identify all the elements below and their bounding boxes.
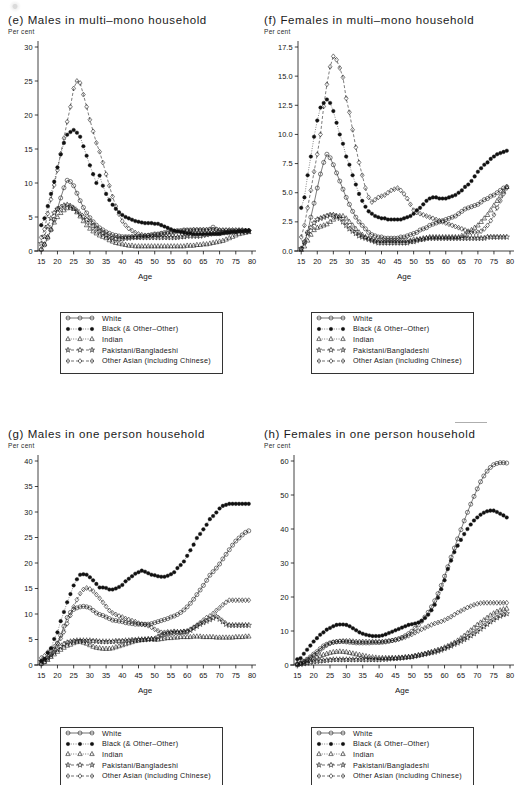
data-point-black [325, 628, 329, 632]
y-tick-label: 5 [28, 213, 32, 222]
legend-key-white [61, 313, 99, 323]
panel-f-unit-label: Per cent [264, 28, 516, 35]
data-point-black [88, 164, 92, 168]
data-point-black [192, 543, 196, 547]
legend-marker-open-triangle-icon [314, 334, 348, 344]
data-point-black [95, 181, 99, 185]
data-point-black [423, 616, 427, 620]
series-black [39, 502, 250, 663]
data-point-otherasian [479, 229, 483, 234]
x-tick-label: 45 [393, 257, 401, 266]
legend-row-otherasian: Other Asian (including Chinese) [61, 770, 222, 781]
legend-label-white: White [350, 314, 373, 323]
y-tick-label: 17.5 [278, 43, 292, 52]
y-tick-label: 5 [28, 635, 32, 644]
data-point-otherasian [65, 119, 69, 124]
x-tick-label: 60 [440, 671, 448, 680]
x-tick-label: 30 [86, 257, 94, 266]
x-tick-label: 20 [53, 257, 61, 266]
data-point-black [218, 507, 222, 511]
x-tick-label: 45 [391, 671, 399, 680]
legend-point [78, 752, 82, 756]
legend-label-white: White [99, 729, 122, 738]
x-tick-label: 80 [506, 257, 514, 266]
x-tick-label: 25 [326, 671, 334, 680]
series-line-otherasian [41, 81, 249, 237]
data-point-black [150, 221, 154, 225]
data-point-black [463, 185, 467, 189]
legend-marker-filled-circle-icon [314, 324, 348, 334]
legend-key-otherasian [61, 356, 99, 366]
x-tick-label: 20 [313, 257, 321, 266]
y-tick-label: 40 [280, 525, 288, 534]
series-white [295, 461, 509, 666]
legend-row-pakbang: Pakistani/Bangladeshi [61, 345, 222, 356]
legend-marker-filled-circle-icon [63, 739, 97, 749]
legend-point [317, 742, 320, 745]
legend-row-indian: Indian [61, 749, 222, 760]
x-tick-label: 75 [232, 671, 240, 680]
data-point-black [486, 161, 490, 165]
data-point-black [410, 622, 414, 626]
data-point-black [56, 631, 60, 635]
y-tick-label: 30 [24, 508, 32, 517]
data-point-otherasian [431, 216, 435, 221]
panel-e-title: (e) Males in multi–mono household [8, 14, 258, 26]
data-point-black [82, 144, 86, 148]
legend-marker-open-diamond-icon [314, 356, 348, 366]
legend-point [317, 752, 321, 756]
data-point-black [133, 219, 137, 223]
y-tick-label: 15.0 [278, 72, 292, 81]
legend-row-otherasian: Other Asian (including Chinese) [312, 770, 473, 781]
legend-point [66, 752, 70, 756]
x-tick-label: 30 [86, 671, 94, 680]
data-point-black [331, 624, 335, 628]
legend-label-black: Black (& Other–Other) [350, 739, 429, 748]
data-point-black [85, 154, 89, 158]
data-point-black [453, 550, 457, 554]
legend-marker-open-triangle-icon [314, 749, 348, 759]
x-tick-label: 15 [293, 671, 301, 680]
legend-row-indian: Indian [312, 749, 473, 760]
series-otherasian [39, 79, 250, 240]
data-point-black [358, 631, 362, 635]
data-point-black [315, 119, 319, 123]
data-point-otherasian [46, 211, 50, 216]
legend-row-otherasian: Other Asian (including Chinese) [61, 355, 222, 366]
series-line-black [297, 511, 506, 660]
data-point-black [394, 629, 398, 633]
data-point-black [457, 191, 461, 195]
x-tick-label: 25 [70, 257, 78, 266]
data-point-black [498, 512, 502, 516]
horizontal-rule-artifact [455, 422, 487, 423]
legend-label-pakbang: Pakistani/Bangladeshi [99, 761, 178, 770]
data-point-black [443, 579, 447, 583]
x-tick-label: 20 [53, 671, 61, 680]
legend-marker-open-diamond-icon [63, 356, 97, 366]
data-point-black [247, 502, 251, 506]
data-point-black [364, 205, 368, 209]
data-point-black [39, 223, 43, 227]
panel-g-title: (g) Males in one person household [8, 428, 258, 440]
data-point-black [179, 563, 183, 567]
legend-row-black: Black (& Other–Other) [61, 324, 222, 335]
y-tick-label: 10.0 [278, 130, 292, 139]
data-point-black [420, 619, 424, 623]
series-black [39, 128, 250, 236]
legend-label-indian: Indian [99, 750, 123, 759]
panel-h-title: (h) Females in one person household [264, 428, 516, 440]
legend-label-indian: Indian [350, 750, 374, 759]
x-tick-label: 35 [361, 257, 369, 266]
data-point-black [413, 622, 417, 626]
x-tick-label: 75 [490, 671, 498, 680]
series-pakbang [295, 611, 510, 667]
data-point-black [479, 513, 483, 517]
x-tick-label: 55 [167, 257, 175, 266]
data-point-black [309, 155, 313, 159]
data-point-black [338, 133, 342, 137]
y-tick-label: 25 [24, 533, 32, 542]
x-tick-label: 25 [329, 257, 337, 266]
data-point-black [492, 509, 496, 513]
data-point-black [335, 623, 339, 627]
legend-point [78, 337, 82, 341]
